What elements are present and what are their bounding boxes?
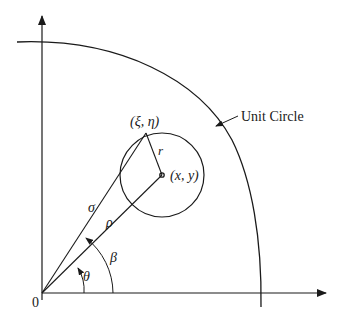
beta-label: β: [109, 250, 117, 265]
polar-geometry-diagram: 0 (ξ, η) (x, y) r σ ρ θ β Unit Circle: [0, 0, 339, 324]
rho-label: ρ: [105, 215, 113, 230]
sigma-label: σ: [88, 200, 96, 215]
unit-circle-label: Unit Circle: [241, 109, 304, 124]
r-label: r: [158, 143, 164, 158]
xy-label: (x, y): [170, 168, 199, 184]
theta-label: θ: [83, 269, 90, 284]
unit-circle-arc: [17, 42, 261, 307]
xi-eta-label: (ξ, η): [130, 114, 160, 130]
origin-label: 0: [32, 295, 39, 310]
rho-line: [42, 175, 162, 293]
